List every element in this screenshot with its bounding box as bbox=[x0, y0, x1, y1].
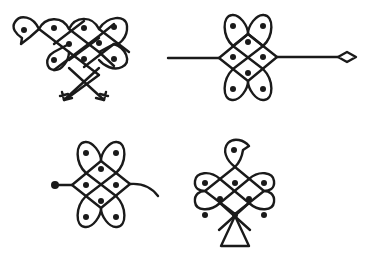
motif-bird-with-arrows bbox=[14, 17, 129, 100]
motif-lattice-with-tail bbox=[51, 142, 158, 227]
motif-lattice-with-diamond bbox=[168, 15, 356, 100]
motif-bird-on-triangle bbox=[195, 140, 274, 246]
kolam-figure bbox=[0, 0, 372, 258]
